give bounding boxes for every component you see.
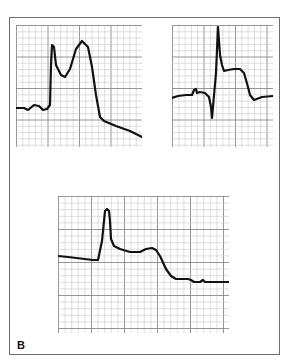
ecg-grid xyxy=(58,196,229,333)
ecg-trace xyxy=(58,209,229,282)
ecg-trace xyxy=(172,27,273,118)
ecg-grid xyxy=(172,25,273,147)
ecg-trace xyxy=(16,41,142,137)
ecg-panel-top-left xyxy=(16,25,142,147)
ecg-panel-bottom xyxy=(58,196,229,333)
ecg-panel-top-right xyxy=(172,25,273,147)
figure-label: B xyxy=(17,339,25,351)
ecg-grid xyxy=(16,25,142,147)
